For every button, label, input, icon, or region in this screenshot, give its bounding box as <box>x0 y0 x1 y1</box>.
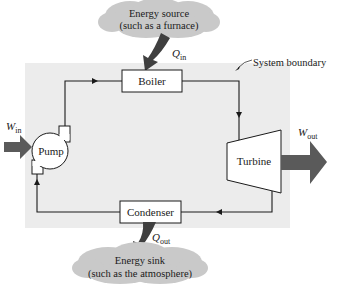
q-in-label: Qin <box>172 47 186 62</box>
energy-source-line2: (such as a furnace) <box>120 20 199 32</box>
boiler-label: Boiler <box>138 75 166 87</box>
energy-source-line1: Energy source <box>129 8 189 19</box>
condenser-label: Condenser <box>127 206 174 218</box>
q-out-label: Qout <box>152 231 171 246</box>
energy-sink-line1: Energy sink <box>115 255 166 266</box>
turbine-label: Turbine <box>237 155 272 167</box>
pump-label: Pump <box>38 145 64 157</box>
w-out-label: Wout <box>298 126 318 141</box>
w-in-label: Win <box>6 120 21 135</box>
energy-source-cloud <box>98 0 220 38</box>
energy-sink-line2: (such as the atmosphere) <box>88 268 193 280</box>
heat-engine-diagram: System boundary Energy source (such as a… <box>0 0 338 287</box>
system-boundary-label: System boundary <box>253 57 327 68</box>
